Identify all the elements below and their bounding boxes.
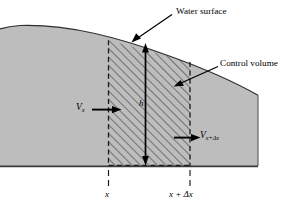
outflow-velocity-subscript: x+Δx — [206, 134, 219, 141]
inflow-velocity-label: Vx — [76, 103, 85, 113]
depth-label: h — [139, 99, 144, 108]
control-volume-label: Control volume — [220, 59, 278, 68]
outflow-velocity-symbol: V — [200, 130, 206, 140]
control-volume-hatch — [100, 30, 200, 175]
water-surface-label: Water surface — [176, 7, 227, 16]
outflow-velocity-label: Vx+Δx — [200, 131, 219, 141]
diagram-canvas — [0, 0, 301, 212]
axis-label-x: x — [105, 190, 109, 199]
water-surface-leader-arrow — [132, 15, 173, 43]
open-channel-control-volume-figure: Water surface Control volume Vx Vx+Δx h … — [0, 0, 301, 212]
inflow-velocity-subscript: x — [82, 106, 85, 113]
inflow-velocity-symbol: V — [76, 102, 82, 112]
axis-label-x-plus-dx: x + Δx — [169, 190, 193, 199]
